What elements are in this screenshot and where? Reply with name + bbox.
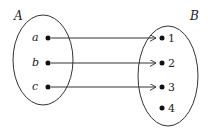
element-label-4: 4 [168,102,175,115]
element-dot-1 [160,36,165,41]
element-dot-3 [160,85,165,90]
mapping-diagram: A B abc 1234 [0,0,208,134]
element-dot-a [46,36,51,41]
element-dot-2 [160,61,165,66]
element-dot-4 [160,106,165,111]
element-label-3: 3 [168,81,175,94]
element-label-1: 1 [168,32,175,45]
set-a-ellipse [13,15,73,105]
element-dot-b [46,61,51,66]
element-label-c: c [32,80,38,93]
set-b-label: B [189,9,199,23]
set-a-label: A [13,9,23,23]
element-label-b: b [32,56,39,69]
element-label-a: a [32,31,39,44]
element-dot-c [46,85,51,90]
element-label-2: 2 [168,57,175,70]
